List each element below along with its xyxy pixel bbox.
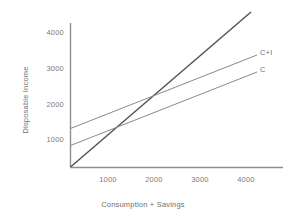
x-tick-label-1000: 1000 bbox=[99, 176, 117, 184]
x-tick-label-4000: 4000 bbox=[237, 176, 255, 184]
x-axis-title: Consumption + Savings bbox=[101, 201, 185, 209]
x-tick-label-3000: 3000 bbox=[191, 176, 209, 184]
y-tick-label-1000: 1000 bbox=[40, 136, 64, 144]
series-line-c-plus-i bbox=[71, 55, 258, 129]
chart-container: 4000 3000 2000 1000 1000 2000 3000 4000 … bbox=[0, 0, 286, 217]
y-axis-title: Disposable Income bbox=[22, 66, 30, 133]
series-label-c: C bbox=[260, 66, 266, 74]
x-tick-label-2000: 2000 bbox=[145, 176, 163, 184]
series-label-c-plus-i: C+I bbox=[260, 49, 272, 57]
series-line-c bbox=[71, 72, 258, 146]
series-line-45-degree bbox=[71, 12, 252, 167]
y-tick-label-2000: 2000 bbox=[40, 101, 64, 109]
y-tick-label-4000: 4000 bbox=[40, 29, 64, 37]
y-tick-label-3000: 3000 bbox=[40, 65, 64, 73]
